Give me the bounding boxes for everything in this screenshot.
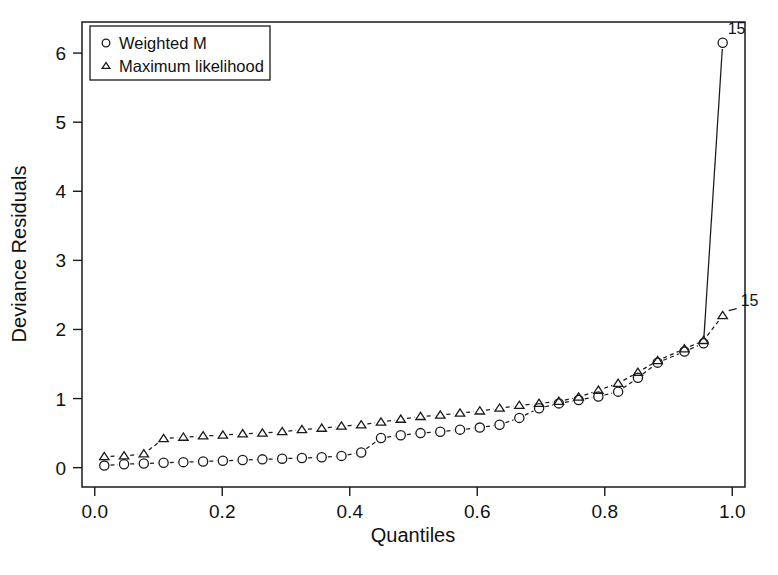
data-point-triangle (357, 421, 366, 428)
data-point-circle (159, 458, 168, 467)
data-point-circle (718, 38, 727, 47)
series-connector (584, 392, 592, 395)
series-connector (407, 417, 414, 418)
data-point-circle (179, 458, 188, 467)
data-point-triangle (475, 407, 484, 414)
data-point-triangle (633, 368, 642, 375)
data-point-circle (554, 399, 563, 408)
data-point-circle (317, 453, 326, 462)
data-point-triangle (337, 422, 346, 429)
series-connector (170, 438, 177, 439)
series-connector (427, 432, 434, 433)
y-tick-label: 1 (55, 389, 66, 410)
data-point-circle (396, 431, 405, 440)
data-point-triangle (218, 431, 227, 438)
point-annotations: 1515 (728, 20, 759, 311)
data-point-triangle (396, 415, 405, 422)
y-tick-label: 3 (55, 250, 66, 271)
data-point-triangle (198, 432, 207, 439)
series-connector (387, 420, 394, 421)
data-point-circle (495, 420, 504, 429)
data-point-circle (475, 423, 484, 432)
series-connector (624, 375, 633, 380)
data-point-triangle (718, 311, 727, 318)
series-connector (149, 442, 159, 450)
x-tick-label: 0.8 (592, 501, 618, 522)
series-connector (525, 411, 534, 415)
series-connector (604, 393, 612, 395)
series-connector (387, 436, 394, 437)
data-point-triangle (139, 450, 148, 457)
data-point-triangle (317, 424, 326, 431)
legend-label: Maximum likelihood (119, 57, 264, 75)
series-connector (130, 454, 137, 455)
data-point-triangle (238, 430, 247, 437)
annotation-label: 15 (741, 292, 759, 309)
series-connector (407, 434, 414, 435)
data-point-circle (416, 429, 425, 438)
series-connector (446, 414, 453, 415)
series-connector (486, 409, 493, 410)
series-connector (506, 406, 513, 407)
deviance-residuals-chart: 0.00.20.40.60.81.0 0123456 1515 Quantile… (0, 0, 778, 575)
data-point-circle (357, 448, 366, 457)
data-point-circle (436, 427, 445, 436)
data-point-triangle (436, 411, 445, 418)
data-point-triangle (258, 429, 267, 436)
data-point-circle (653, 358, 662, 367)
plot-frame (82, 22, 745, 487)
data-point-triangle (297, 425, 306, 432)
series-weighted-m (100, 38, 728, 470)
data-point-circle (278, 454, 287, 463)
data-point-triangle (100, 452, 109, 459)
y-tick-label: 5 (55, 112, 66, 133)
legend-item-maximum-likelihood[interactable]: Maximum likelihood (102, 57, 264, 75)
y-tick-label: 6 (55, 43, 66, 64)
data-point-circle (100, 461, 109, 470)
x-tick-label: 0.0 (82, 501, 108, 522)
series-connector (328, 427, 335, 428)
y-tick-label: 4 (55, 181, 66, 202)
annotation-leader-line (729, 309, 737, 311)
data-point-circle (238, 455, 247, 464)
series-connector (704, 49, 722, 337)
x-tick-label: 1.0 (719, 501, 745, 522)
data-point-circle (455, 425, 464, 434)
series-connector (308, 429, 315, 430)
series-connector (328, 456, 335, 457)
series-connector (446, 430, 453, 431)
data-point-triangle (376, 418, 385, 425)
y-axis-ticks: 0123456 (55, 43, 82, 479)
series-connector (707, 321, 719, 336)
data-point-triangle (455, 409, 464, 416)
annotation-label: 15 (728, 20, 746, 37)
y-axis-title: Deviance Residuals (8, 166, 30, 343)
series-maximum-likelihood (100, 311, 728, 459)
data-point-circle (258, 455, 267, 464)
data-point-circle (199, 457, 208, 466)
series-connector (288, 430, 295, 431)
series-connector (110, 465, 117, 466)
data-point-triangle (515, 401, 524, 408)
series-connector (486, 426, 493, 427)
series-connector (643, 366, 653, 374)
x-tick-label: 0.4 (337, 501, 364, 522)
data-point-triangle (613, 379, 622, 386)
data-series-layer (100, 38, 728, 470)
legend-label: Weighted M (119, 34, 207, 52)
chart-legend: Weighted MMaximum likelihood (90, 26, 270, 80)
series-connector (623, 381, 633, 388)
data-point-circle (119, 460, 128, 469)
series-connector (585, 398, 593, 399)
data-point-circle (515, 413, 524, 422)
data-point-circle (376, 433, 385, 442)
data-point-circle (614, 387, 623, 396)
data-point-circle (337, 451, 346, 460)
data-point-circle (139, 459, 148, 468)
series-connector (525, 404, 532, 405)
series-connector (367, 423, 374, 424)
series-connector (545, 402, 552, 403)
data-point-circle (218, 456, 227, 465)
series-connector (348, 425, 355, 426)
data-point-triangle (119, 452, 128, 459)
